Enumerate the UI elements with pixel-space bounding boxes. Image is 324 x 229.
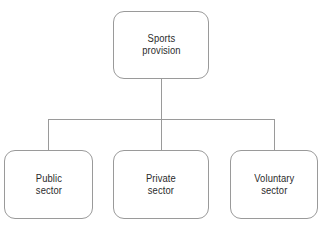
node-sports-provision[interactable]: Sports provision	[113, 11, 209, 79]
node-private-sector[interactable]: Private sector	[113, 150, 209, 219]
connector-horizontal-bus	[48, 119, 275, 120]
node-public-sector[interactable]: Public sector	[4, 150, 93, 219]
node-voluntary-sector-label: Voluntary sector	[254, 173, 294, 197]
node-sports-provision-label: Sports provision	[142, 33, 180, 57]
connector-root-to-private	[161, 79, 162, 151]
connector-bus-to-voluntary	[274, 119, 275, 151]
connector-bus-to-public	[48, 119, 49, 151]
node-private-sector-label: Private sector	[146, 173, 176, 197]
node-public-sector-label: Public sector	[35, 173, 61, 197]
diagram-canvas: Sports provision Public sector Private s…	[0, 0, 324, 229]
node-voluntary-sector[interactable]: Voluntary sector	[230, 150, 318, 219]
